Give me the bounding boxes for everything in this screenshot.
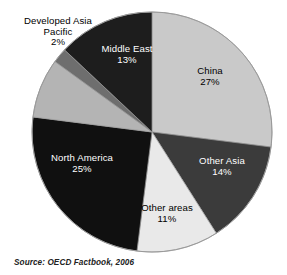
- pie-chart-figure: Developed Asia Pacific 2% Middle East 13…: [0, 0, 287, 275]
- source-note: Source: OECD Factbook, 2006: [14, 258, 134, 267]
- pie-slice-china: [152, 12, 272, 147]
- pie-chart-canvas: [0, 0, 287, 275]
- pie-slice-group: [32, 12, 272, 252]
- pie-slice-north-america: [32, 117, 152, 251]
